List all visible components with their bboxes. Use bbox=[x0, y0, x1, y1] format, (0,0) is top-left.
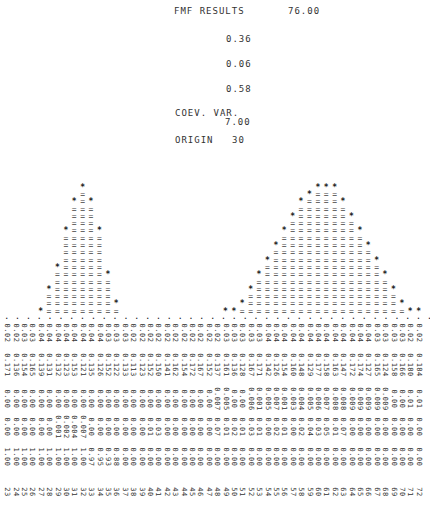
data-cell: 56 bbox=[280, 477, 288, 507]
data-cell: 0.171 bbox=[3, 350, 11, 380]
data-cell: 0.004 bbox=[297, 384, 305, 414]
data-cell: 0.142 bbox=[263, 350, 271, 380]
data-cell: 0.02 bbox=[179, 318, 187, 348]
data-cell: 0.00 bbox=[389, 442, 397, 472]
data-cell: 0.00 bbox=[163, 442, 171, 472]
data-cell: 0.00 bbox=[112, 384, 120, 414]
histogram-bar: *============= bbox=[347, 213, 355, 315]
data-cell: 0.05 bbox=[322, 412, 330, 442]
data-cell: 0.00 bbox=[3, 412, 11, 442]
data-cell: 0.03 bbox=[154, 412, 162, 442]
data-cell: 0.00 bbox=[406, 442, 414, 472]
data-cell: 0.007 bbox=[322, 384, 330, 414]
data-cell: 38 bbox=[129, 477, 137, 507]
data-cell: 0.00 bbox=[205, 384, 213, 414]
data-cell: 0.00 bbox=[154, 442, 162, 472]
data-cell: 0.00 bbox=[154, 384, 162, 414]
data-cell: 0.03 bbox=[247, 318, 255, 348]
data-cell: 0.133 bbox=[121, 350, 129, 380]
data-cell: 71 bbox=[406, 477, 414, 507]
data-cell: 0.00 bbox=[356, 442, 364, 472]
data-cell: 0.154 bbox=[179, 350, 187, 380]
data-cell: 0.00 bbox=[398, 412, 406, 442]
histogram-bar: *======= bbox=[373, 257, 381, 315]
data-cell: 0.88 bbox=[112, 442, 120, 472]
data-cell: 0.163 bbox=[331, 350, 339, 380]
data-row-4: 0.000.000.000.000.000.000.0010.0020.0040… bbox=[0, 412, 430, 442]
data-cell: 0.00 bbox=[171, 442, 179, 472]
data-cell: 0.93 bbox=[104, 442, 112, 472]
data-cell: 0.00 bbox=[95, 384, 103, 414]
data-cell: 0.00 bbox=[121, 412, 129, 442]
data-cell: 0.04 bbox=[297, 318, 305, 348]
data-cell: 0.00 bbox=[373, 412, 381, 442]
data-cell: 0.00 bbox=[322, 442, 330, 472]
data-cell: 0.126 bbox=[95, 350, 103, 380]
data-cell: 0.113 bbox=[129, 350, 137, 380]
data-cell: 0.00 bbox=[221, 442, 229, 472]
data-cell: 0.00 bbox=[79, 384, 87, 414]
data-cell: 0.007 bbox=[213, 384, 221, 414]
data-cell: 0.00 bbox=[415, 442, 423, 472]
data-cell: 0.00 bbox=[196, 412, 204, 442]
data-cell: 70 bbox=[398, 477, 406, 507]
histogram-bar: *=============== bbox=[297, 198, 305, 315]
data-cell: 0.00 bbox=[230, 384, 238, 414]
data-cell: 0.00 bbox=[247, 442, 255, 472]
data-row-3: 0.000.000.000.000.000.000.000.000.000.00… bbox=[0, 384, 430, 414]
data-cell: 0.005 bbox=[305, 384, 313, 414]
data-cell: 1.00 bbox=[20, 442, 28, 472]
data-row-1: 0.020.020.030.030.040.040.040.040.040.04… bbox=[0, 318, 430, 348]
data-cell: 0.00 bbox=[112, 412, 120, 442]
data-cell: 0.172 bbox=[188, 350, 196, 380]
data-cell: 0.02 bbox=[205, 318, 213, 348]
data-cell: 0.124 bbox=[381, 350, 389, 380]
data-cell: 0.04 bbox=[289, 318, 297, 348]
data-cell: 27 bbox=[37, 477, 45, 507]
histogram-bar: *=============== bbox=[87, 198, 95, 315]
data-cell: 0.152 bbox=[205, 350, 213, 380]
histogram-bar: *===== bbox=[255, 271, 263, 315]
data-cell: 0.174 bbox=[356, 350, 364, 380]
data-cell: 0.129 bbox=[305, 350, 313, 380]
data-cell: 35 bbox=[104, 477, 112, 507]
data-cell: 0.97 bbox=[87, 442, 95, 472]
data-cell: 0.00 bbox=[121, 384, 129, 414]
data-cell: 58 bbox=[297, 477, 305, 507]
result-value-2: 0.06 bbox=[226, 59, 252, 69]
data-cell: 29 bbox=[53, 477, 61, 507]
data-cell: 39 bbox=[137, 477, 145, 507]
data-cell: 0.006 bbox=[314, 384, 322, 414]
data-cell: 0.02 bbox=[415, 318, 423, 348]
histogram-bar: *======= bbox=[263, 257, 271, 315]
data-cell: 54 bbox=[263, 477, 271, 507]
data-cell: 0.160 bbox=[289, 350, 297, 380]
data-cell: 0.04 bbox=[322, 318, 330, 348]
data-cell: 0.00 bbox=[188, 442, 196, 472]
data-cell: 55 bbox=[272, 477, 280, 507]
data-cell: 0.00 bbox=[263, 412, 271, 442]
data-cell: 0.03 bbox=[255, 318, 263, 348]
data-cell: 0.00 bbox=[364, 412, 372, 442]
data-cell: 0.00 bbox=[3, 384, 11, 414]
data-cell: 0.00 bbox=[28, 384, 36, 414]
data-cell: 1.00 bbox=[11, 442, 19, 472]
data-cell: 0.03 bbox=[373, 318, 381, 348]
data-cell: 0.02 bbox=[406, 318, 414, 348]
data-cell: 34 bbox=[95, 477, 103, 507]
data-cell: 0.00 bbox=[137, 384, 145, 414]
data-cell: 0.135 bbox=[87, 350, 95, 380]
data-cell: 0.153 bbox=[70, 350, 78, 380]
origin-label: ORIGIN bbox=[175, 135, 214, 145]
histogram-bar: *=========== bbox=[280, 227, 288, 315]
data-cell: 0.03 bbox=[121, 318, 129, 348]
data-cell: 0.002 bbox=[62, 412, 70, 442]
data-cell: 0.00 bbox=[20, 412, 28, 442]
data-cell: 0.03 bbox=[381, 318, 389, 348]
data-cell: 0.00 bbox=[146, 384, 154, 414]
data-cell: 0.04 bbox=[37, 318, 45, 348]
data-cell: 1.00 bbox=[28, 442, 36, 472]
data-cell: 62 bbox=[331, 477, 339, 507]
data-cell: 0.128 bbox=[238, 350, 246, 380]
data-cell: 0.03 bbox=[238, 318, 246, 348]
